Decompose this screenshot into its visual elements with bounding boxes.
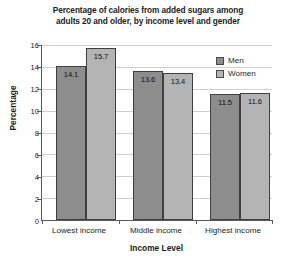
bar-chart: Percentage of calories from added sugars…	[0, 0, 296, 268]
x-axis-title: Income Level	[41, 243, 272, 253]
bar-value-men-lowest-income: 14.1	[64, 70, 78, 79]
legend-swatch-men-icon	[216, 57, 224, 65]
bar-value-women-middle-income: 13.4	[171, 77, 185, 86]
x-tick-label-lowest-income: Lowest income	[52, 226, 106, 235]
bar-men-lowest-income[interactable]: 14.1	[56, 66, 86, 220]
x-tick-mark-start	[42, 220, 43, 224]
x-tick-mark-end	[272, 220, 273, 224]
bar-value-women-highest-income: 11.6	[248, 97, 262, 106]
bar-men-middle-income[interactable]: 13.6	[133, 71, 163, 220]
bar-women-middle-income[interactable]: 13.4	[163, 73, 193, 220]
chart-title-line-1: Percentage of calories from added sugars…	[53, 5, 243, 15]
y-axis-title: Percentage	[8, 63, 18, 153]
legend-item-men[interactable]: Men	[216, 54, 272, 67]
x-tick-mark-2	[196, 220, 197, 224]
bar-value-men-highest-income: 11.5	[218, 98, 232, 107]
legend-swatch-women-icon	[216, 70, 224, 78]
bar-value-women-lowest-income: 15.7	[94, 52, 108, 61]
chart-title-line-2: adults 20 and older, by income level and…	[18, 16, 278, 27]
bar-women-lowest-income[interactable]: 15.7	[86, 48, 116, 220]
legend-label-women: Women	[228, 69, 256, 78]
chart-legend: Men Women	[216, 54, 272, 80]
bar-men-highest-income[interactable]: 11.5	[210, 94, 240, 220]
bar-value-men-middle-income: 13.6	[141, 75, 155, 84]
x-tick-mark-1	[119, 220, 120, 224]
gridline-16	[42, 45, 272, 46]
x-tick-label-middle-income: Middle income	[130, 226, 182, 235]
chart-title: Percentage of calories from added sugars…	[18, 5, 278, 27]
bar-women-highest-income[interactable]: 11.6	[240, 93, 270, 220]
x-tick-label-highest-income: Highest income	[205, 226, 261, 235]
y-axis-tick-labels: 16 14 12 10 8 6 4 2 0	[19, 45, 39, 221]
legend-item-women[interactable]: Women	[216, 67, 272, 80]
legend-label-men: Men	[228, 56, 244, 65]
